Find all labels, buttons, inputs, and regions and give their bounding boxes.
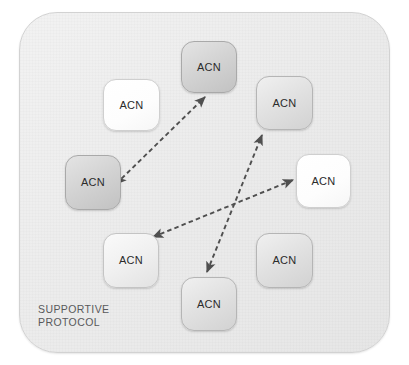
node-acn-mid-right[interactable]: ACN — [296, 154, 351, 208]
node-acn-bottom[interactable]: ACN — [181, 277, 237, 331]
node-label: ACN — [119, 255, 143, 266]
node-label: ACN — [273, 255, 297, 266]
node-acn-upper-right[interactable]: ACN — [256, 76, 313, 130]
node-acn-upper-left[interactable]: ACN — [103, 79, 160, 131]
node-label: ACN — [120, 100, 144, 111]
node-acn-lower-left[interactable]: ACN — [103, 233, 159, 288]
protocol-caption-line-1: SUPPORTIVE — [38, 303, 110, 316]
node-label: ACN — [81, 177, 105, 188]
node-acn-mid-left[interactable]: ACN — [65, 155, 121, 210]
node-label: ACN — [197, 62, 221, 73]
node-acn-top[interactable]: ACN — [181, 41, 237, 93]
diagram-root: ACN ACN ACN ACN ACN ACN ACN ACN SUPPORTI… — [0, 0, 409, 365]
protocol-caption: SUPPORTIVE PROTOCOL — [38, 303, 110, 329]
node-label: ACN — [273, 98, 297, 109]
protocol-caption-line-2: PROTOCOL — [38, 316, 110, 329]
node-label: ACN — [312, 176, 336, 187]
node-label: ACN — [197, 299, 221, 310]
node-acn-lower-right[interactable]: ACN — [256, 233, 313, 288]
